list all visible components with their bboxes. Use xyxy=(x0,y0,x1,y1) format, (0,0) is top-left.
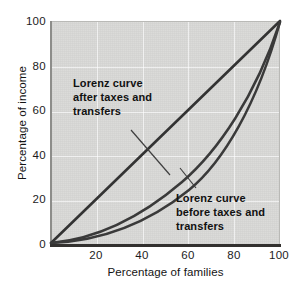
gridline-vertical-40 xyxy=(143,22,144,245)
annotation-before-taxes: Lorenz curve before taxes and transfers xyxy=(176,191,265,233)
x-tick-60: 60 xyxy=(168,249,208,261)
gridline-horizontal-40 xyxy=(51,156,279,157)
x-tick-80: 80 xyxy=(214,249,254,261)
x-tick-100: 100 xyxy=(259,249,298,261)
x-axis-line xyxy=(50,244,281,247)
x-tick-40: 40 xyxy=(122,249,162,261)
x-tick-20: 20 xyxy=(76,249,116,261)
gridline-vertical-20 xyxy=(97,22,98,245)
gridline-horizontal-80 xyxy=(51,67,279,68)
annotation-after-taxes: Lorenz curve after taxes and transfers xyxy=(73,76,152,118)
lorenz-curve-figure: Lorenz curve after taxes and transfers L… xyxy=(0,0,298,291)
x-axis-title: Percentage of families xyxy=(50,266,281,278)
y-axis-title: Percentage of income xyxy=(16,48,28,198)
y-tick-100: 100 xyxy=(0,15,46,27)
y-axis-line xyxy=(50,21,52,245)
x-axis-tick-labels: 20 40 60 80 100 xyxy=(0,249,298,267)
